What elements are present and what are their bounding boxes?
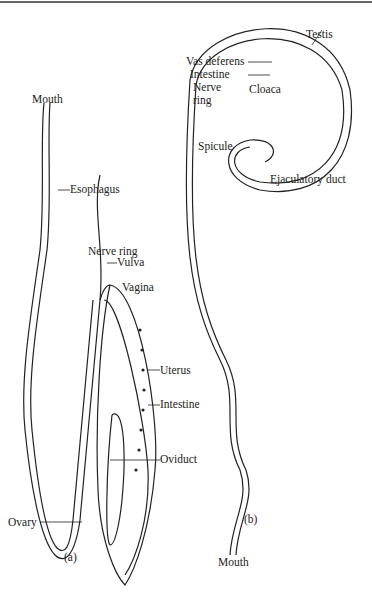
label-intestine-female: Intestine: [160, 398, 200, 410]
diagram-drawing: [0, 0, 372, 594]
label-nerve-ring-male-2: ring: [193, 94, 212, 106]
label-nerve-ring-male-1: Nerve: [193, 81, 221, 93]
label-oviduct: Oviduct: [160, 453, 197, 465]
label-intestine-male: Intestine: [190, 68, 230, 80]
label-panel-b: (b): [244, 513, 257, 525]
label-mouth-female: Mouth: [32, 93, 63, 105]
label-panel-a: (a): [64, 551, 77, 563]
label-esophagus: Esophagus: [70, 183, 120, 195]
label-vulva: Vulva: [117, 256, 144, 268]
label-mouth-male: Mouth: [218, 556, 249, 568]
label-ovary: Ovary: [8, 516, 37, 528]
label-vagina: Vagina: [122, 281, 154, 293]
label-uterus: Uterus: [160, 364, 191, 376]
label-vas-deferens: Vas deferens: [186, 55, 244, 67]
label-spicule: Spicule: [198, 140, 233, 152]
label-ejaculatory-duct: Ejaculatory duct: [270, 173, 346, 185]
label-cloaca: Cloaca: [249, 83, 281, 95]
label-testis: Testis: [306, 28, 333, 40]
nematode-diagram: Mouth Esophagus Nerve ring Vulva Vagina …: [0, 0, 372, 594]
